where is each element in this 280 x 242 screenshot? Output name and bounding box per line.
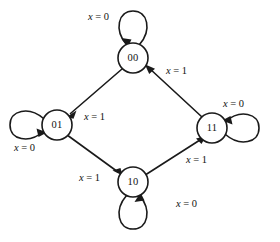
state-diagram-figure: 00 01 11 10 x = 0 x = 0 x = 0 x = 0: [0, 0, 280, 242]
transition-01-to-10-label-var: x: [79, 172, 84, 183]
self-loop-00-label-val: 0: [104, 11, 109, 22]
transition-00-to-01-label-var: x: [84, 111, 89, 122]
transition-00-to-01-line: [71, 69, 123, 114]
state-node-01-label: 01: [51, 119, 62, 130]
transition-01-to-10-label: x = 1: [79, 173, 100, 184]
self-loop-00-label: x = 0: [88, 12, 109, 23]
transition-10-to-11-label-eq: =: [193, 154, 199, 165]
state-node-11-label: 11: [207, 122, 218, 133]
transition-00-to-01-label-eq: =: [91, 111, 97, 122]
self-loop-01-label: x = 0: [14, 143, 35, 154]
self-loop-11-label-var: x: [223, 98, 228, 109]
state-node-11[interactable]: 11: [197, 113, 227, 143]
transition-00-to-01-label: x = 1: [84, 112, 105, 123]
self-loop-10-label-eq: =: [183, 198, 189, 209]
state-graph-canvas: 00 01 11 10: [0, 0, 280, 242]
transition-11-to-00-label-val: 1: [182, 65, 187, 76]
self-loop-10-label: x = 0: [176, 199, 197, 210]
transition-11-to-00-label-eq: =: [173, 65, 179, 76]
transition-01-to-10-label-eq: =: [86, 172, 92, 183]
transition-01-to-10-label-val: 1: [95, 172, 100, 183]
state-node-01[interactable]: 01: [42, 110, 72, 140]
self-loop-00-label-eq: =: [95, 11, 101, 22]
self-loop-10: [119, 193, 147, 230]
transition-01-to-10: [69, 136, 123, 176]
transition-01-to-10-line: [69, 136, 119, 172]
state-node-00[interactable]: 00: [118, 43, 148, 73]
self-loop-11-label-eq: =: [230, 98, 236, 109]
self-loop-10-label-val: 0: [192, 198, 197, 209]
transition-11-to-00-label-var: x: [166, 65, 171, 76]
self-loop-00-label-var: x: [88, 11, 93, 22]
self-loop-01-label-eq: =: [21, 142, 27, 153]
transition-10-to-11-label: x = 1: [186, 155, 207, 166]
state-node-10[interactable]: 10: [118, 167, 148, 197]
state-node-00-label: 00: [127, 52, 138, 63]
transition-00-to-01-label-val: 1: [100, 111, 105, 122]
state-node-10-label: 10: [127, 176, 138, 187]
transition-10-to-11-label-var: x: [186, 154, 191, 165]
self-loop-01-label-val: 0: [30, 142, 35, 153]
transition-11-to-00-label: x = 1: [166, 66, 187, 77]
self-loop-01-label-var: x: [14, 142, 19, 153]
self-loop-10-label-var: x: [176, 198, 181, 209]
transition-10-to-11-label-val: 1: [202, 154, 207, 165]
self-loop-11-label-val: 0: [239, 98, 244, 109]
self-loop-00: [119, 11, 147, 48]
self-loop-11-label: x = 0: [223, 99, 244, 110]
